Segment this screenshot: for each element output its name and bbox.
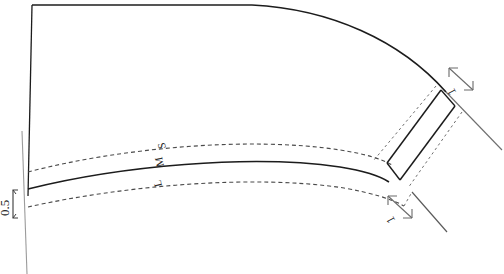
- radial-dotted-line-upper: [374, 86, 436, 160]
- radial-band-end-cap-bottom: [387, 163, 400, 180]
- curve-label-m-middle: M: [152, 156, 166, 168]
- band-outer-dashed-curve-s: [28, 144, 392, 172]
- dimension-arrow-upper-right-leader: [449, 68, 473, 90]
- dimension-arrow-lower-right-leader: [388, 196, 412, 218]
- curve-label-s-outer: S: [155, 142, 168, 150]
- technical-drawing-canvas: 0.5 1 1 S M L: [0, 0, 504, 274]
- outer-diagonal-upper-right: [446, 92, 502, 150]
- dimension-label-1-lower-right: 1: [383, 214, 398, 226]
- band-inner-dashed-curve-l: [28, 182, 404, 207]
- radial-band-solid-inner-edge: [400, 106, 455, 180]
- radial-band-solid-outer-edge: [387, 90, 441, 163]
- outer-diagonal-lower-right: [412, 192, 447, 232]
- outer-diagonal-lower-right-extension: [404, 192, 412, 206]
- dimension-label-1-upper-right: 1: [444, 86, 459, 98]
- dimension-bracket-0-5: [13, 190, 18, 218]
- dimension-label-0-5: 0.5: [0, 200, 12, 216]
- band-middle-solid-curve-m: [28, 162, 389, 189]
- construction-vertical-line: [22, 131, 27, 274]
- left-vertical-edge: [28, 5, 32, 196]
- cad-linework: 0.5 1 1 S M L: [0, 0, 504, 274]
- outer-boundary-arc: [252, 5, 446, 92]
- curve-label-l-inner: L: [151, 179, 164, 188]
